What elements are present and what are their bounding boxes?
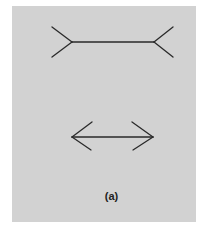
bottom-line-arrows-in: [72, 122, 153, 150]
figure-caption: (a): [0, 190, 201, 202]
top-line-fins-out: [52, 27, 173, 57]
